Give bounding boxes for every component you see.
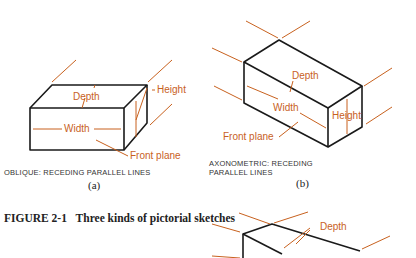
panel-a-sublabel: (a) [88,180,100,191]
oblique-width-label: Width [64,124,90,134]
axonometric-width-label: Width [273,103,299,113]
axonometric-height-label: Height [332,111,361,121]
figure-title-text: Three kinds of pictorial sketches [76,212,236,224]
figure-number: FIGURE 2-1 [4,212,67,224]
oblique-depth-label: Depth [73,92,100,102]
figure-title: FIGURE 2-1 Three kinds of pictorial sket… [4,212,235,225]
oblique-front-plane-label: Front plane [130,151,181,161]
axonometric-depth-label: Depth [292,71,319,81]
axonometric-caption-line2: PARALLEL LINES [209,169,313,178]
figure-page: Depth Width Height Front plane OBLIQUE: … [0,0,416,258]
oblique-caption: OBLIQUE: RECEDING PARALLEL LINES [4,169,150,178]
oblique-height-label: Height [157,85,186,95]
panel-c-depth-label: Depth [320,222,347,232]
axonometric-caption: AXONOMETRIC: RECEDING PARALLEL LINES [209,160,313,177]
panel-b-sublabel: (b) [296,178,309,189]
axonometric-front-plane-label: Front plane [223,132,274,142]
